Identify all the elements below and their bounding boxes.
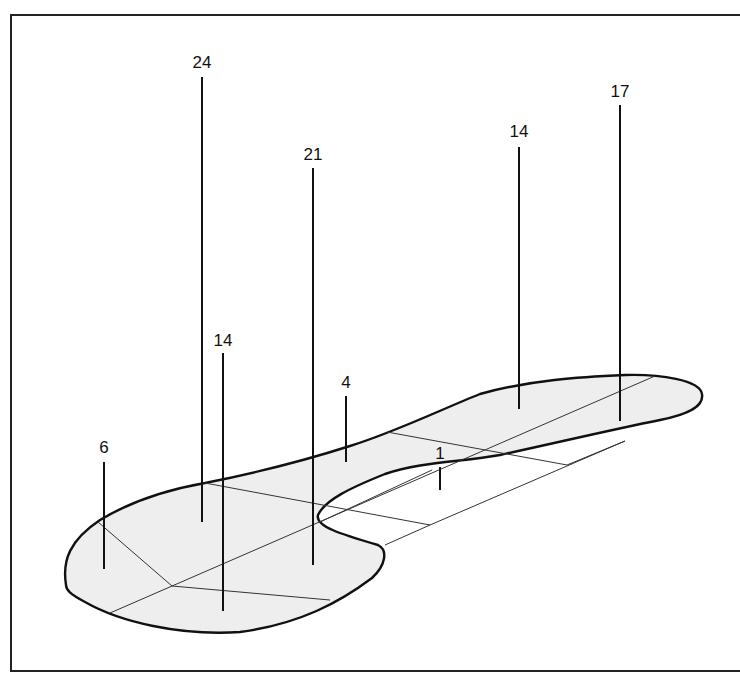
marker-arch: 1	[435, 444, 444, 490]
marker-label: 6	[99, 438, 108, 457]
marker-label: 24	[193, 53, 212, 72]
marker-heel-center-top: 24	[193, 53, 212, 522]
foot-outline	[65, 375, 702, 633]
marker-label: 14	[214, 331, 233, 350]
marker-label: 21	[304, 145, 323, 164]
marker-label: 1	[435, 444, 444, 463]
marker-forefoot-medial: 17	[611, 82, 630, 421]
marker-label: 14	[510, 122, 529, 141]
marker-forefoot-lateral: 14	[510, 122, 529, 409]
marker-label: 4	[341, 373, 350, 392]
marker-label: 17	[611, 82, 630, 101]
